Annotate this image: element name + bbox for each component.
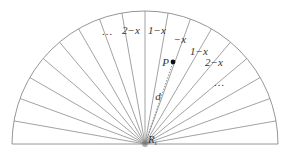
- point-p-label: P: [161, 56, 169, 68]
- sector-label: −x: [174, 33, 186, 45]
- sector-label: 2−x: [205, 56, 223, 68]
- sector-label: …: [214, 76, 225, 88]
- distance-label: d: [155, 90, 161, 102]
- center-label-subscript: t: [155, 139, 158, 147]
- sector-label: 2−x: [122, 24, 140, 36]
- sector-label: 1−x: [148, 24, 166, 36]
- point-p-dot: [171, 60, 176, 65]
- sector-rays: [14, 11, 276, 144]
- sector-diagram: … 2−x 1−x −x 1−x 2−x … P d Rt: [0, 0, 287, 156]
- sector-label: …: [102, 25, 113, 37]
